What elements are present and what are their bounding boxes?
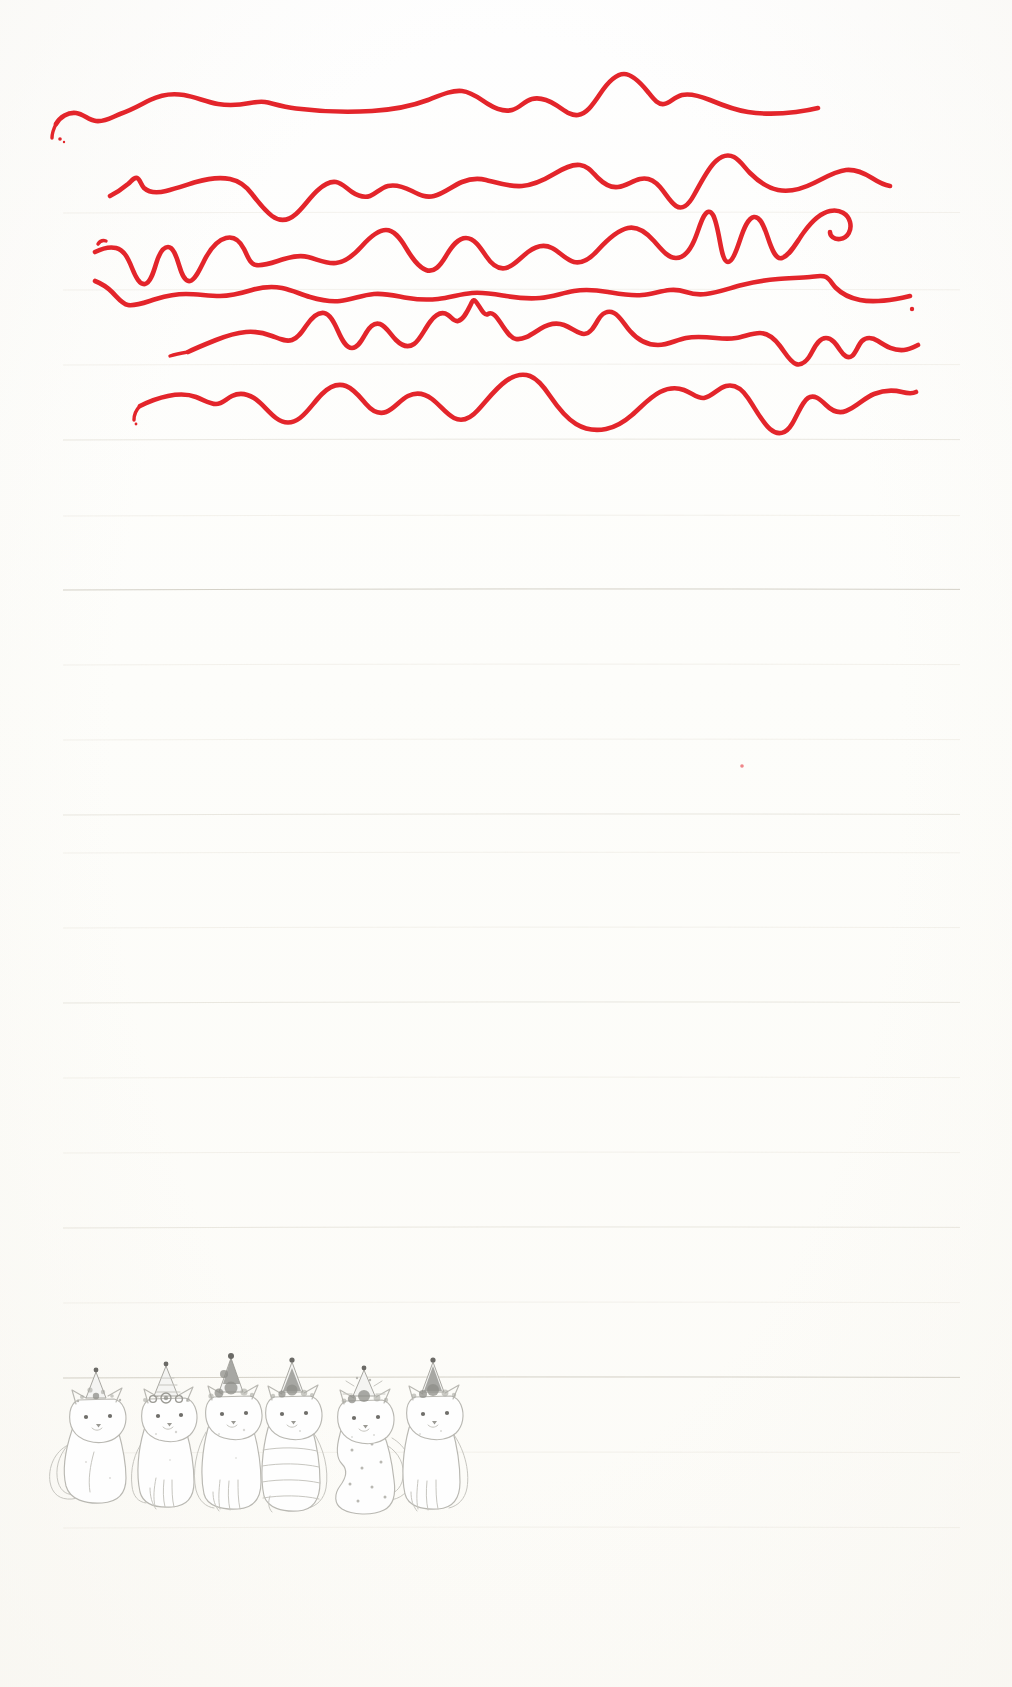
cat-3 <box>194 1353 262 1511</box>
cat-4 <box>262 1357 327 1512</box>
cat-2 <box>132 1362 198 1509</box>
cat-6 <box>403 1357 468 1511</box>
pencil-cats-layer <box>0 0 1012 1687</box>
cat-5 <box>336 1366 413 1514</box>
cat-1 <box>50 1368 126 1504</box>
notebook-page: Lined notebook page with red pen scribbl… <box>0 0 1012 1687</box>
